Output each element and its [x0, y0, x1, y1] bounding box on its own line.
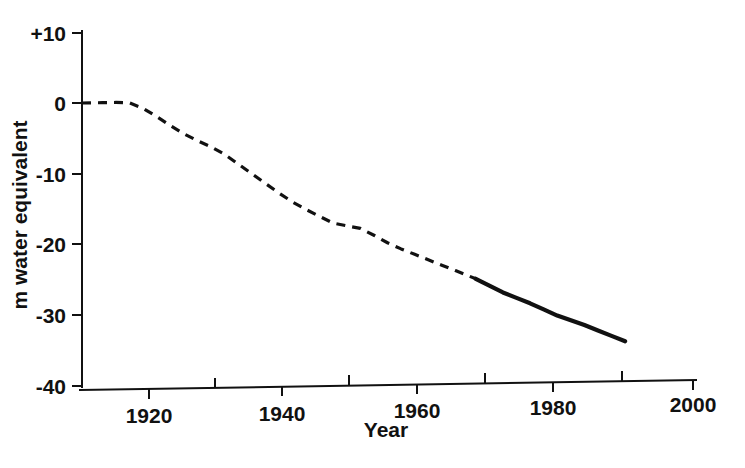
y-tick-label-0: 0 [54, 92, 66, 115]
chart-figure: +10 0 -10 -20 -30 -40 1920 1940 1960 198… [0, 0, 745, 468]
y-tick-label-minus10: -10 [36, 163, 66, 186]
x-tick-label-1980: 1980 [530, 396, 577, 419]
y-axis-title: m water equivalent [8, 120, 31, 309]
x-axis-title: Year [364, 418, 408, 441]
x-axis-line [80, 380, 696, 390]
x-tick-label-1920: 1920 [126, 404, 173, 427]
y-tick-label-minus30: -30 [36, 304, 66, 327]
x-tick-label-2000: 2000 [670, 393, 717, 416]
y-tick-label-minus40: -40 [36, 375, 66, 398]
series-line-reconstructed [82, 102, 476, 278]
series-line-measured [476, 279, 625, 342]
x-tick-label-1940: 1940 [259, 402, 306, 425]
y-axis-ticks [72, 33, 82, 386]
y-tick-label-minus20: -20 [36, 233, 66, 256]
y-tick-label-10: +10 [30, 22, 66, 45]
glacier-mass-balance-line-chart: +10 0 -10 -20 -30 -40 1920 1940 1960 198… [0, 0, 745, 468]
